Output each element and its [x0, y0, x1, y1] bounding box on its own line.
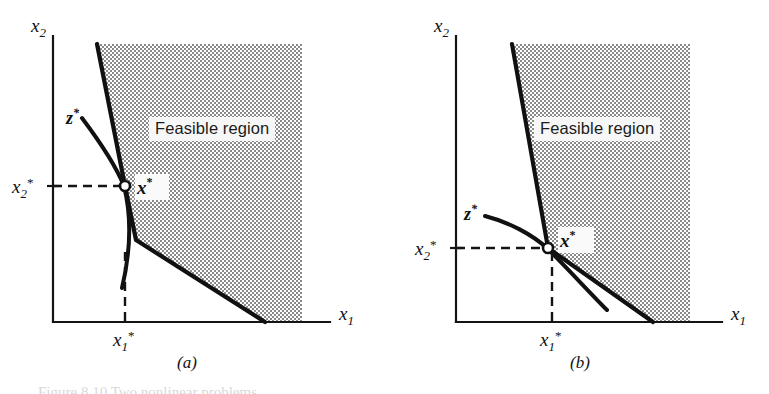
y-axis-label-b: x2 — [433, 15, 449, 40]
contour-label-star-b: * — [471, 202, 478, 216]
optimum-label-star-b: * — [570, 228, 576, 242]
optimum-point-a — [120, 181, 130, 191]
x-tick-label-a: x1* — [112, 328, 134, 354]
contour-label-b: z* — [463, 202, 478, 224]
region-label-box-b: Feasible region — [534, 117, 660, 141]
panel-label-a: (a) — [177, 353, 197, 372]
contour-label-base-b: z — [463, 204, 471, 224]
panel-a: x2 x1 x2* x1* z* (a) — [0, 0, 385, 394]
panel-label-b: (b) — [570, 353, 590, 372]
contour-label-base-a: z — [65, 108, 73, 128]
x-axis-label-sub-b: 1 — [739, 313, 746, 328]
x-axis-label-sub-a: 1 — [347, 313, 354, 328]
figure-root: x2 x1 x2* x1* z* (a) x* Feasible region — [0, 0, 769, 394]
optimum-label-star-a: * — [147, 175, 153, 189]
caption-strip: Figure 8.10 Two nonlinear problems. — [0, 382, 769, 394]
y-axis-label-sub-b: 2 — [442, 25, 449, 40]
x-tick-label-star-a: * — [128, 328, 135, 343]
caption-text: Figure 8.10 Two nonlinear problems. — [0, 382, 769, 394]
x-axis-label-a: x1 — [338, 303, 354, 328]
region-label-box-a: Feasible region — [149, 117, 275, 141]
region-label-a: Feasible region — [155, 119, 269, 137]
y-axis-label-a: x2 — [30, 15, 46, 40]
optimum-label-box-b: x* — [558, 227, 594, 253]
optimum-point-b — [543, 243, 553, 253]
feasible-region-shading-b — [512, 44, 690, 322]
contour-label-a: z* — [65, 106, 80, 128]
optimum-label-base-b: x — [559, 230, 570, 251]
y-tick-label-star-a: * — [27, 175, 34, 190]
y-tick-label-star-b: * — [430, 237, 437, 252]
y-axis-label-sub-a: 2 — [39, 25, 46, 40]
x-tick-label-star-b: * — [555, 328, 562, 343]
panel-b: x2 x1 x2* x1* z* (b) — [384, 0, 769, 394]
optimum-label-box-a: x* — [135, 174, 169, 200]
optimum-label-a: x* — [136, 175, 153, 198]
x-tick-label-b: x1* — [539, 328, 561, 354]
y-tick-label-b: x2* — [414, 237, 436, 263]
optimum-label-base-a: x — [136, 177, 147, 198]
x-axis-label-b: x1 — [730, 303, 746, 328]
optimum-label-b: x* — [559, 228, 576, 251]
region-label-b: Feasible region — [540, 119, 654, 137]
y-tick-label-a: x2* — [11, 175, 33, 201]
contour-label-star-a: * — [73, 106, 80, 120]
